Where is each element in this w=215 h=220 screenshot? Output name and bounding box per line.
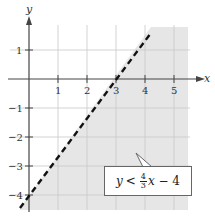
callout-lhs: y xyxy=(116,174,123,188)
x-tick-3: 3 xyxy=(113,85,119,96)
y-tick-neg1: −1 xyxy=(8,103,23,114)
callout-rest: − 4 xyxy=(155,174,180,188)
callout-var: x xyxy=(148,174,155,188)
inequality-callout: y < 4 3 x − 4 xyxy=(104,166,192,196)
fraction-denominator: 3 xyxy=(141,182,146,190)
y-tick-neg3: −3 xyxy=(8,161,23,172)
callout-fraction: 4 3 xyxy=(140,173,147,190)
x-tick-5: 5 xyxy=(171,85,177,96)
y-tick-neg2: −2 xyxy=(8,132,23,143)
x-tick-4: 4 xyxy=(142,85,148,96)
y-tick-neg4: −4 xyxy=(8,190,23,201)
y-axis-arrow-icon xyxy=(26,16,32,25)
y-tick-1: 1 xyxy=(16,45,22,56)
x-tick-2: 2 xyxy=(84,85,90,96)
x-axis-label: x xyxy=(204,72,211,85)
callout-relation: < xyxy=(126,174,136,188)
x-tick-1: 1 xyxy=(55,85,61,96)
y-axis-label: y xyxy=(25,3,33,16)
